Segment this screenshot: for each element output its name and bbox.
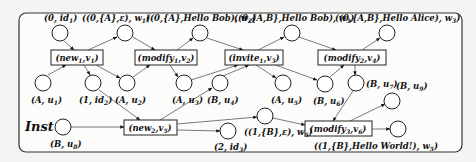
label-u2: (A, u2) [115, 95, 146, 106]
svg-text:(modify3,v6): (modify3,v6) [310, 124, 367, 135]
place-w3 [284, 25, 300, 41]
label-u4: (B, u4) [207, 95, 239, 106]
transition-modify3: (modify3,v6) [305, 121, 372, 136]
svg-text:(modify2,v4): (modify2,v4) [324, 53, 381, 64]
place-u5 [275, 75, 291, 91]
label-w3-alice: ((0,{A,B},Hello Alice), w3) [335, 13, 460, 24]
label-u9: (B, u9) [396, 81, 428, 92]
label-id3: (2, id3) [214, 142, 247, 153]
svg-text:(modify1,v2): (modify1,v2) [138, 53, 195, 64]
transition-modify1: (modify1,v2) [135, 50, 197, 65]
petri-net-diagram: (new1,v1) (modify1,v2) (invite1,v3) (mod… [0, 0, 476, 162]
label-id2: (1, id2) [79, 95, 112, 106]
place-id3 [220, 123, 236, 139]
place-u1 [35, 75, 51, 91]
place-id2 [85, 75, 101, 91]
place-u9 [384, 93, 400, 109]
place-id1 [52, 25, 68, 41]
place-w1 [117, 25, 133, 41]
place-u7 [348, 75, 364, 91]
transition-invite1: (invite1,v3) [225, 50, 283, 65]
transition-modify2: (modify2,v4) [318, 50, 386, 65]
place-u8 [55, 119, 71, 135]
label-w1: ((0,{A},ε), w1) [82, 13, 150, 24]
place-u4 [212, 75, 228, 91]
label-u6: (B, u6) [313, 96, 345, 107]
transition-new2: (new2,v5) [124, 120, 177, 135]
place-w5-eps [257, 108, 273, 124]
label-u7: (B, u7) [366, 79, 398, 90]
label-u8: (B, u8) [50, 139, 82, 150]
place-u6 [317, 76, 333, 92]
place-u3 [176, 75, 192, 91]
label-u1: (A, u1) [31, 95, 62, 106]
label-u3: (A, u3) [172, 95, 203, 106]
label-u5: (A, u5) [271, 95, 302, 106]
inst-label: Inst [24, 119, 54, 134]
place-w3-alice [379, 25, 395, 41]
label-id1: (0, id1) [44, 13, 77, 24]
place-w2 [192, 25, 208, 41]
label-w5-hello-world: ((1,{B},Hello World!), w5) [314, 141, 438, 152]
label-w5-eps: ((1,{B},ε), w5) [244, 127, 313, 138]
place-w5-hello-world [390, 121, 406, 137]
transition-new1: (new1,v1) [51, 50, 103, 65]
place-u2 [119, 75, 135, 91]
